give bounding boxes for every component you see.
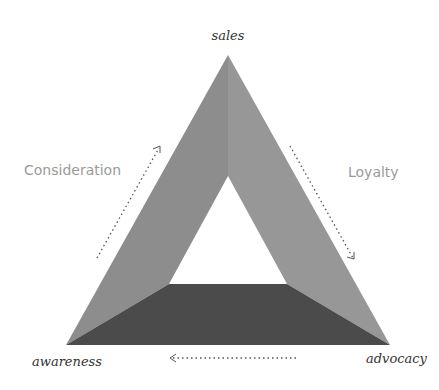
arrow-advocacy-to-awareness bbox=[170, 354, 296, 362]
stage-label-consideration: Consideration bbox=[24, 162, 121, 178]
vertex-label-advocacy: advocacy bbox=[366, 351, 428, 366]
funnel-triangle-diagram: sales awareness advocacy Consideration L… bbox=[0, 0, 439, 390]
vertex-label-sales: sales bbox=[212, 28, 245, 43]
stage-label-loyalty: Loyalty bbox=[348, 164, 399, 180]
vertex-label-awareness: awareness bbox=[32, 354, 102, 369]
